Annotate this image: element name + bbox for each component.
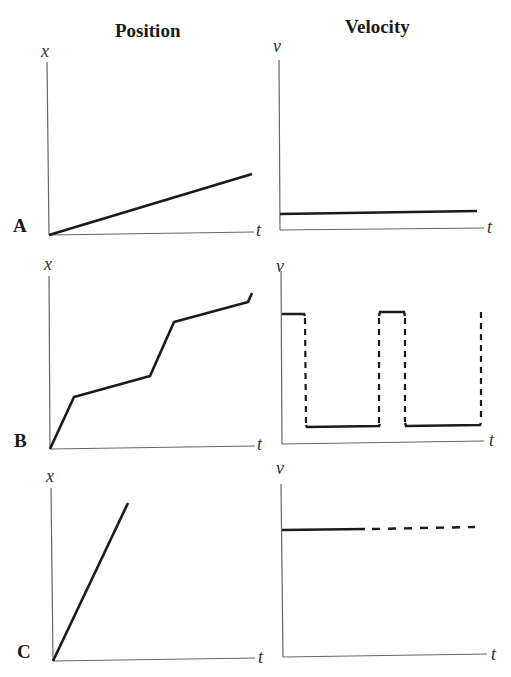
b-velocity-dash-1	[305, 318, 306, 424]
b-velocity-x-axis	[282, 441, 484, 444]
a-position-graph	[47, 62, 254, 235]
c-velocity-dashed	[372, 527, 475, 529]
b-position-y-axis	[49, 276, 50, 449]
a-position-y-axis	[47, 62, 49, 235]
b-velocity-low-1	[306, 424, 380, 427]
c-position-graph	[51, 488, 255, 661]
c-position-x-axis	[53, 658, 255, 661]
c-position-curve	[53, 503, 128, 661]
a-velocity-x-axis	[280, 228, 484, 230]
c-velocity-y-axis	[281, 484, 283, 657]
a-velocity-graph	[279, 60, 484, 230]
graphs-canvas	[0, 0, 511, 677]
b-velocity-graph	[281, 271, 484, 444]
c-velocity-graph	[281, 484, 487, 657]
b-position-graph	[49, 276, 255, 449]
a-velocity-curve	[280, 211, 477, 214]
c-velocity-x-axis	[283, 654, 487, 657]
b-velocity-y-axis	[281, 271, 282, 444]
b-position-curve	[50, 293, 252, 449]
b-velocity-high-2	[379, 312, 405, 316]
c-position-y-axis	[51, 488, 53, 661]
a-velocity-y-axis	[279, 60, 280, 230]
b-velocity-low-2	[405, 423, 481, 426]
b-position-x-axis	[50, 446, 255, 449]
b-velocity-high-1	[282, 314, 305, 316]
a-position-x-axis	[49, 232, 254, 235]
c-velocity-solid	[282, 529, 365, 530]
a-position-curve	[49, 174, 252, 235]
